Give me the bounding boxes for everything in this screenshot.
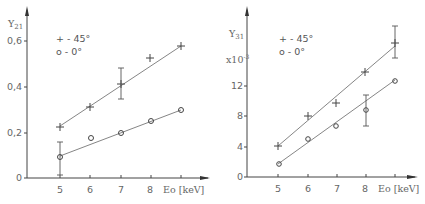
x-tick-label: 8 bbox=[147, 184, 153, 195]
y-tick-label: 0,6 bbox=[7, 35, 22, 46]
y-axis-label: Y21 bbox=[7, 18, 23, 31]
x-axis-arrow-icon bbox=[200, 176, 210, 180]
y-axis-arrow-icon bbox=[25, 6, 29, 16]
legend-item-0deg: o - 0° bbox=[56, 46, 82, 57]
y-tick-label: 0,4 bbox=[7, 81, 22, 92]
x-tick-label: 7 bbox=[334, 183, 340, 194]
legend: + - 45° o - 0° bbox=[56, 33, 90, 57]
y-axis-label: Y31 bbox=[228, 28, 244, 41]
fit-line-0deg bbox=[278, 80, 395, 164]
error-bar bbox=[392, 26, 398, 58]
x-tick-label: 7 bbox=[118, 184, 124, 195]
fit-line-0deg bbox=[60, 110, 181, 156]
x-tick-label: 6 bbox=[305, 183, 311, 194]
fit-line-45deg bbox=[278, 46, 395, 146]
legend-item-45deg: + - 45° bbox=[56, 33, 90, 44]
x-tick-label: 5 bbox=[57, 184, 63, 195]
y-axis-arrow-icon bbox=[245, 6, 249, 16]
x-axis-arrow-icon bbox=[407, 175, 418, 179]
y-tick-label: 4 bbox=[237, 141, 243, 152]
x-tick-label: 8 bbox=[362, 183, 368, 194]
y-tick-label: 0,2 bbox=[7, 127, 22, 138]
figure: 0 0,2 0,4 0,6 Y21 5 6 7 8 Eo [keV] + - 4… bbox=[0, 0, 425, 204]
y-tick-label: 12 bbox=[231, 80, 243, 91]
chart-right: 0 4 8 12 Y31 x10-3 5 6 7 8 Eo [keV] + - … bbox=[226, 6, 419, 194]
legend-item-0deg: o - 0° bbox=[279, 46, 305, 57]
x-axis-label: Eo [keV] bbox=[378, 183, 419, 194]
y-tick-label: 8 bbox=[237, 110, 243, 121]
x-tick-label: 5 bbox=[275, 183, 281, 194]
chart-left: 0 0,2 0,4 0,6 Y21 5 6 7 8 Eo [keV] + - 4… bbox=[7, 6, 210, 195]
y-scale-label: x10-3 bbox=[226, 53, 249, 65]
legend: + - 45° o - 0° bbox=[279, 33, 313, 57]
legend-item-45deg: + - 45° bbox=[279, 33, 313, 44]
x-tick-label: 6 bbox=[87, 184, 93, 195]
y-tick-label: 0 bbox=[237, 171, 243, 182]
x-axis-label: Eo [keV] bbox=[163, 184, 204, 195]
y-tick-label: 0 bbox=[16, 172, 22, 183]
